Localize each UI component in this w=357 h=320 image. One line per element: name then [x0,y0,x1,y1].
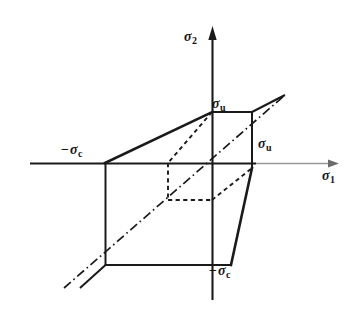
label-neg-sigma-c-bottom: −σc [209,261,230,280]
sigma-2-arrowhead-icon [208,26,216,40]
envelope-bottom-left-extension [80,265,106,288]
label-neg-sigma-c-left: −σc [61,140,82,159]
sigma-u-right-symbol: σ [258,136,266,151]
sigma-u-top-symbol: σ [212,96,220,111]
sigma-2-subscript: 2 [192,35,197,46]
neg-sigma-c-left-symbol: σ [70,142,78,157]
axis-label-sigma-2: σ2 [184,27,197,46]
neg-sigma-c-left-subscript: c [78,148,83,159]
dashed-construction-upper [168,112,212,163]
axis-label-sigma-1: σ1 [322,166,335,185]
sigma-u-right-subscript: u [266,142,272,153]
sigma-u-top-subscript: u [220,102,226,113]
biaxial-failure-envelope-figure [0,0,357,320]
label-sigma-u-right: σu [258,134,272,153]
neg-sigma-c-bottom-sign: − [209,263,218,278]
neg-sigma-c-left-sign: − [61,142,70,157]
sigma-1-symbol: σ [322,168,330,183]
neg-sigma-c-bottom-subscript: c [226,269,231,280]
sigma-2-symbol: σ [184,29,192,44]
sigma-1-subscript: 1 [330,174,335,185]
envelope-upper-left-face [105,112,213,163]
label-sigma-u-top: σu [212,94,226,113]
neg-sigma-c-bottom-symbol: σ [218,263,226,278]
envelope-lower-right-face [231,168,252,265]
